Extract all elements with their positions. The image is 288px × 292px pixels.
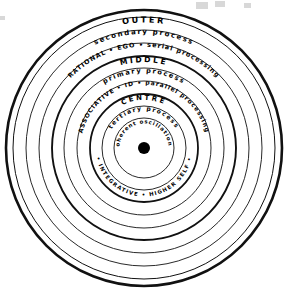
- ring-lower-attributes-centre: • INTEGRATIVE • HIGHER SELF •: [95, 156, 192, 197]
- ring-heading-outer: OUTER: [121, 14, 166, 26]
- ring-process-centre: tertiary process: [107, 105, 182, 130]
- concentric-diagram: OUTERsecondary processRATIONAL • EGO • s…: [0, 0, 288, 292]
- ring-labels: OUTERsecondary processRATIONAL • EGO • s…: [0, 0, 222, 197]
- center-dot: [138, 142, 150, 154]
- ring-heading-middle: MIDDLE: [119, 55, 169, 67]
- rings-svg: OUTERsecondary processRATIONAL • EGO • s…: [0, 0, 288, 292]
